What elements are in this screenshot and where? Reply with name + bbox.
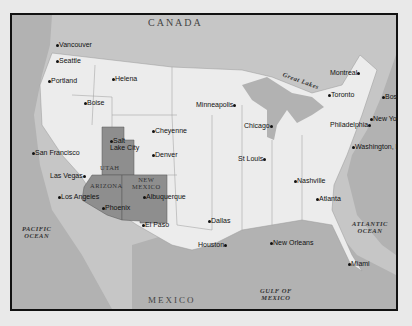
- city-san-francisco: San Francisco: [35, 149, 80, 156]
- city-miami: Miami: [351, 260, 370, 267]
- country-label-canada: CANADA: [148, 17, 203, 28]
- city-las-vegas: Las Vegas: [50, 172, 83, 179]
- city-portland: Portland: [51, 77, 77, 84]
- city-houston: Houston: [198, 241, 224, 248]
- city-new-york: New York: [373, 115, 398, 122]
- city-salt-lake-city: Salt Lake City: [110, 137, 139, 151]
- city-cheyenne: Cheyenne: [155, 127, 187, 134]
- city-boise: Boise: [87, 99, 105, 106]
- city-minneapolis: Minneapolis: [196, 101, 233, 108]
- country-label-mexico: MEXICO: [148, 295, 196, 305]
- city-toronto: Toronto: [331, 91, 354, 98]
- city-atlanta: Atlanta: [319, 195, 341, 202]
- city-new-orleans: New Orleans: [273, 239, 313, 246]
- city-denver: Denver: [155, 151, 178, 158]
- city-washington-dc: Washington, DC: [355, 143, 398, 150]
- city-seattle: Seattle: [59, 57, 81, 64]
- map-frame: CANADA MEXICO PACIFIC OCEAN ATLANTIC OCE…: [10, 13, 398, 311]
- water-label-pacific: PACIFIC OCEAN: [22, 225, 51, 239]
- city-albuquerque: Albuquerque: [146, 193, 186, 200]
- city-st-louis: St Louis: [238, 155, 263, 162]
- state-label-new-mexico: NEW MEXICO: [132, 177, 161, 190]
- water-label-atlantic: ATLANTIC OCEAN: [352, 220, 388, 234]
- city-los-angeles: Los Angeles: [61, 193, 99, 200]
- city-helena: Helena: [115, 75, 137, 82]
- city-montreal: Montreal: [330, 69, 357, 76]
- city-nashville: Nashville: [297, 177, 325, 184]
- city-philadelphia: Philadelphia: [330, 121, 368, 128]
- state-label-utah: UTAH: [100, 165, 120, 172]
- city-el-paso: El Paso: [145, 221, 169, 228]
- city-boston: Boston: [385, 93, 398, 100]
- city-phoenix: Phoenix: [105, 204, 130, 211]
- city-chicago: Chicago: [244, 122, 270, 129]
- state-label-arizona: ARIZONA: [90, 183, 123, 190]
- city-vancouver: Vancouver: [59, 41, 92, 48]
- water-label-gulf: GULF OF MEXICO: [260, 287, 292, 301]
- city-dallas: Dallas: [211, 217, 230, 224]
